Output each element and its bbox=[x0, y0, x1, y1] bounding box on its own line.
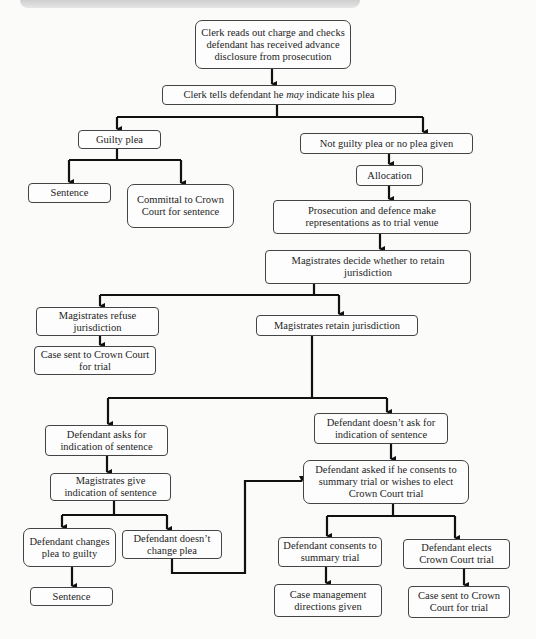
node-defendant-doesnt-ask: Defendant doesn’t ask for indication of … bbox=[314, 413, 448, 444]
node-label: Defendant asked if he consents to summar… bbox=[308, 464, 464, 500]
node-label: Defendant consents to summary trial bbox=[283, 540, 377, 564]
node-case-sent-crown-right: Case sent to Crown Court for trial bbox=[408, 586, 510, 618]
node-case-management: Case management directions given bbox=[274, 584, 382, 617]
node-doesnt-change-plea: Defendant doesn’t change plea bbox=[122, 530, 222, 559]
node-case-sent-crown-left: Case sent to Crown Court for trial bbox=[34, 346, 156, 375]
node-label: Case sent to Crown Court for trial bbox=[39, 349, 151, 373]
node-label: Sentence bbox=[53, 591, 91, 603]
node-label: Case sent to Crown Court for trial bbox=[413, 590, 505, 614]
node-magistrates-give-indication: Magistrates give indication of sentence bbox=[50, 473, 171, 501]
node-magistrates-refuse: Magistrates refuse jurisdiction bbox=[36, 307, 159, 336]
node-label: Magistrates give indication of sentence bbox=[55, 475, 166, 499]
node-label: Committal to Crown Court for sentence bbox=[132, 194, 229, 218]
node-magistrates-decide: Magistrates decide whether to retain jur… bbox=[265, 250, 471, 284]
node-elects-crown: Defendant elects Crown Court trial bbox=[403, 539, 510, 569]
node-label: Defendant doesn’t ask for indication of … bbox=[319, 417, 443, 441]
node-clerk-indicate-plea: Clerk tells defendant he may indicate hi… bbox=[162, 85, 396, 105]
node-sentence-bottom: Sentence bbox=[30, 587, 113, 606]
node-label: Sentence bbox=[51, 187, 89, 199]
node-label: Clerk reads out charge and checks defend… bbox=[200, 27, 346, 63]
node-label: Not guilty plea or no plea given bbox=[320, 138, 454, 150]
node-not-guilty-plea: Not guilty plea or no plea given bbox=[300, 133, 473, 154]
node-asked-consent: Defendant asked if he consents to summar… bbox=[303, 460, 469, 504]
node-label: Defendant doesn’t change plea bbox=[127, 533, 217, 557]
node-label: Clerk tells defendant he may indicate hi… bbox=[184, 89, 375, 101]
node-label: Magistrates refuse jurisdiction bbox=[41, 310, 154, 334]
node-defendant-asks: Defendant asks for indication of sentenc… bbox=[45, 425, 168, 456]
node-label: Magistrates retain jurisdiction bbox=[274, 320, 400, 332]
node-label: Guilty plea bbox=[96, 134, 143, 146]
node-allocation: Allocation bbox=[356, 165, 423, 186]
node-committal: Committal to Crown Court for sentence bbox=[127, 184, 234, 228]
node-magistrates-retain: Magistrates retain jurisdiction bbox=[256, 315, 418, 336]
node-label: Defendant asks for indication of sentenc… bbox=[50, 429, 163, 453]
node-representations: Prosecution and defence make representat… bbox=[273, 200, 471, 234]
node-label: Defendant changes plea to guilty bbox=[28, 536, 111, 560]
node-label: Allocation bbox=[367, 170, 411, 182]
node-label: Case management directions given bbox=[279, 589, 377, 613]
node-consents-summary: Defendant consents to summary trial bbox=[278, 537, 382, 567]
node-label: Prosecution and defence make representat… bbox=[278, 205, 466, 229]
node-clerk-reads-charge: Clerk reads out charge and checks defend… bbox=[195, 20, 351, 69]
node-label: Magistrates decide whether to retain jur… bbox=[270, 255, 466, 279]
node-label: Defendant elects Crown Court trial bbox=[408, 542, 505, 566]
node-guilty-plea: Guilty plea bbox=[78, 130, 161, 149]
node-changes-plea: Defendant changes plea to guilty bbox=[23, 528, 116, 567]
node-sentence: Sentence bbox=[28, 183, 111, 203]
